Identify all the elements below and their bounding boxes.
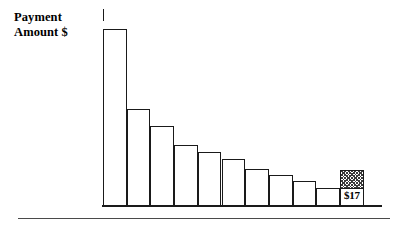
y-axis-line bbox=[103, 9, 104, 21]
horizontal-rule bbox=[18, 218, 390, 219]
bar-value-box: $17 bbox=[340, 189, 364, 206]
plot-area: $17 bbox=[0, 0, 409, 229]
bar bbox=[222, 159, 246, 206]
bar bbox=[174, 145, 198, 206]
bar bbox=[245, 169, 269, 206]
bar bbox=[293, 181, 317, 206]
bar bbox=[269, 175, 293, 206]
x-axis-line bbox=[102, 205, 382, 207]
bar-value-label: $17 bbox=[344, 189, 360, 202]
chart-figure: Payment Amount $ $17 bbox=[0, 0, 409, 229]
bar bbox=[103, 29, 127, 206]
bar bbox=[198, 152, 222, 206]
bar bbox=[127, 109, 151, 206]
bar-hatched-segment bbox=[340, 170, 364, 189]
bar bbox=[316, 188, 340, 206]
bar bbox=[150, 126, 174, 206]
